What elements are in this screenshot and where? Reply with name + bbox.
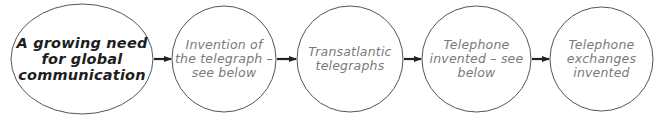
node-transatlantic: Transatlantic telegraphs [297, 18, 403, 100]
node-telegraph-line-2: the telegraph – [175, 52, 273, 66]
node-exchanges-line-1: Telephone [567, 38, 636, 52]
node-transatlantic-line-2: telegraphs [308, 59, 391, 73]
node-need-line-2: for global [16, 51, 147, 67]
node-telephone-line-1: Telephone [430, 38, 524, 52]
node-need-line-3: communication [16, 67, 147, 83]
node-exchanges-line-2: exchanges [567, 52, 636, 66]
node-telegraph-line-1: Invention of [175, 38, 273, 52]
node-telegraph: Invention of the telegraph – see below [172, 18, 276, 100]
node-exchanges: Telephone exchanges invented [550, 18, 653, 100]
node-exchanges-line-3: invented [567, 66, 636, 80]
node-need-line-1: A growing need [16, 35, 147, 51]
node-telephone: Telephone invented – see below [422, 18, 531, 100]
flow-diagram: A growing need for global communication … [0, 0, 666, 118]
node-telephone-line-2: invented – see [430, 52, 524, 66]
node-telegraph-line-3: see below [175, 66, 273, 80]
node-telephone-line-3: below [430, 66, 524, 80]
node-transatlantic-line-1: Transatlantic [308, 45, 391, 59]
node-need: A growing need for global communication [14, 18, 150, 100]
